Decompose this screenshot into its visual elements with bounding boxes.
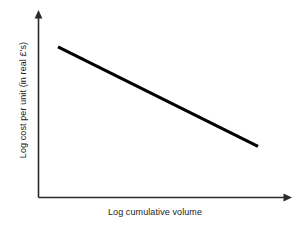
y-axis-arrowhead [35, 10, 43, 19]
chart-container: Log cost per unit (in real £'s) Log cumu… [0, 0, 304, 228]
x-axis-arrowhead [284, 194, 293, 202]
data-line-experience-curve [58, 47, 258, 147]
chart-plot-area [0, 0, 304, 228]
x-axis-label: Log cumulative volume [0, 207, 304, 218]
y-axis-label: Log cost per unit (in real £'s) [18, 42, 29, 158]
